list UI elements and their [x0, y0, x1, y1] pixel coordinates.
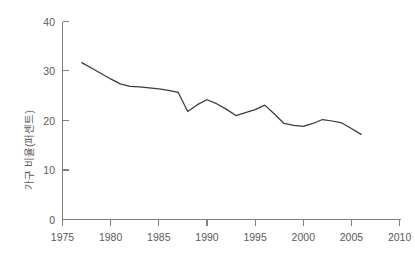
- x-axis-tick-labels: 1975 1980 1985 1990 1995 2000 2005 2010: [51, 231, 412, 243]
- x-tick-label: 1995: [243, 231, 267, 243]
- y-axis-title: 가구 비율(퍼센트): [23, 110, 35, 190]
- x-tick-label: 1975: [51, 231, 75, 243]
- x-axis-ticks: [63, 220, 400, 226]
- line-chart: 가구 비율(퍼센트) 40 30 20 10 0: [0, 0, 415, 256]
- x-tick-label: 2005: [340, 231, 364, 243]
- x-tick-label: 2010: [388, 231, 412, 243]
- data-series-line: [82, 63, 361, 135]
- y-tick-label: 40: [43, 16, 55, 28]
- y-tick-label: 20: [43, 115, 55, 127]
- x-tick-label: 1985: [147, 231, 171, 243]
- y-tick-label: 0: [49, 214, 55, 226]
- chart-canvas: 가구 비율(퍼센트) 40 30 20 10 0: [0, 0, 415, 256]
- x-tick-label: 1980: [99, 231, 123, 243]
- y-axis-tick-labels: 40 30 20 10 0: [43, 16, 55, 226]
- y-tick-label: 10: [43, 164, 55, 176]
- y-axis-ticks: [63, 22, 69, 220]
- x-tick-label: 1990: [195, 231, 219, 243]
- y-tick-label: 30: [43, 65, 55, 77]
- x-tick-label: 2000: [292, 231, 316, 243]
